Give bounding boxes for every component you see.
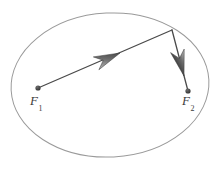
focus-label-f2: F2: [182, 94, 194, 111]
focus-label-f1-letter: F: [30, 93, 38, 108]
arrow-outgoing-ray: [171, 49, 191, 78]
focus-label-f2-letter: F: [182, 93, 190, 108]
arrow-incoming-ray: [93, 47, 122, 70]
focus-points: [35, 85, 190, 93]
reflected-path: [38, 30, 188, 91]
ellipse-focus-diagram: F1 F2: [0, 0, 224, 170]
focus-label-f2-subscript: 2: [190, 104, 194, 113]
ellipse-outline: [7, 8, 212, 162]
focus-label-f1-subscript: 1: [38, 104, 42, 113]
focus-dot-f1: [35, 85, 40, 90]
diagram-canvas: [0, 0, 224, 170]
focus-label-f1: F1: [30, 94, 42, 111]
